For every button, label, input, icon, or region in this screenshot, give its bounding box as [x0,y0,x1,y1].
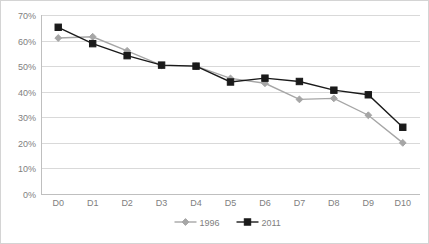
data-point-1996-D8 [330,95,337,102]
y-tick-label: 70% [18,11,36,21]
data-point-2011-D3 [158,62,164,68]
data-point-1996-D7 [296,96,303,103]
data-point-2011-D9 [365,92,371,98]
x-tick-label: D4 [190,198,202,208]
x-tick-label: D10 [395,198,412,208]
y-tick-label: 10% [18,164,36,174]
x-tick-label: D7 [294,198,306,208]
chart-frame: 0%10%20%30%40%50%60%70%D0D1D2D3D4D5D6D7D… [0,0,429,244]
x-tick-label: D8 [328,198,340,208]
data-point-2011-D7 [296,78,302,84]
data-point-2011-D6 [262,75,268,81]
data-point-2011-D10 [400,124,406,130]
y-tick-label: 40% [18,88,36,98]
data-point-2011-D4 [193,63,199,69]
y-tick-label: 60% [18,37,36,47]
data-point-2011-D0 [55,24,61,30]
line-chart: 0%10%20%30%40%50%60%70%D0D1D2D3D4D5D6D7D… [1,1,429,244]
legend-item-1996[interactable]: 1996 [175,218,220,228]
data-point-2011-D5 [227,79,233,85]
data-point-2011-D2 [124,52,130,58]
data-point-2011-D8 [331,87,337,93]
series-1996 [55,33,406,146]
y-tick-label: 20% [18,139,36,149]
x-tick-label: D0 [52,198,64,208]
x-tick-label: D5 [225,198,237,208]
data-point-1996-D0 [55,35,62,42]
x-tick-label: D2 [121,198,133,208]
legend-label-1996: 1996 [200,218,220,228]
data-point-1996-D1 [89,33,96,40]
x-tick-label: D9 [363,198,375,208]
legend: 19962011 [175,218,281,228]
x-tick-label: D3 [156,198,168,208]
x-tick-label: D1 [87,198,99,208]
y-tick-label: 50% [18,62,36,72]
legend-marker-1996 [182,219,189,226]
legend-item-2011[interactable]: 2011 [237,218,281,228]
y-gridlines [41,16,420,195]
data-point-2011-D1 [89,40,95,46]
y-tick-label: 0% [23,190,36,200]
series-line-1996 [58,37,403,143]
x-tick-label: D6 [259,198,271,208]
y-tick-label: 30% [18,113,36,123]
legend-marker-2011 [244,219,250,225]
legend-label-2011: 2011 [262,218,281,228]
